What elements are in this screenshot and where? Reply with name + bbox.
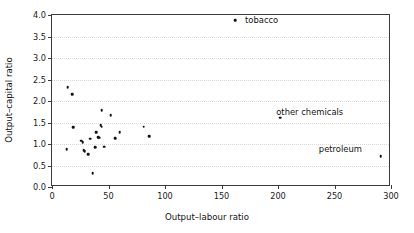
data-point <box>100 126 103 129</box>
data-point <box>81 141 84 144</box>
y-axis-tick-label: 1.0 <box>33 140 46 148</box>
y-axis-tick-label: 1.5 <box>33 118 46 126</box>
data-point <box>98 136 101 139</box>
gridline <box>52 166 389 167</box>
x-axis-tick-label: 50 <box>103 192 113 200</box>
gridline <box>52 37 389 38</box>
data-point <box>95 131 98 134</box>
gridline <box>52 123 389 124</box>
y-axis-tick-label: 0.5 <box>33 161 46 169</box>
data-point <box>148 135 151 138</box>
y-axis-tick <box>48 15 52 16</box>
y-axis-tick <box>48 58 52 59</box>
plot-area: 0.00.51.01.52.02.53.03.54.00501001502002… <box>51 14 390 186</box>
x-axis-tick-label: 100 <box>157 192 173 200</box>
x-axis-tick <box>109 185 110 189</box>
x-axis-title: Output–labour ratio <box>0 212 414 222</box>
y-axis-tick-label: 0.0 <box>33 183 46 191</box>
x-axis-tick <box>52 185 53 189</box>
x-axis-tick <box>222 185 223 189</box>
data-point <box>100 109 103 112</box>
data-point <box>380 155 383 158</box>
y-axis-tick <box>48 144 52 145</box>
data-point <box>89 138 92 141</box>
data-point <box>119 131 122 134</box>
data-point <box>94 146 97 149</box>
data-point <box>71 93 74 96</box>
x-axis-tick <box>335 185 336 189</box>
y-axis-tick <box>48 166 52 167</box>
x-axis-tick-label: 300 <box>383 192 399 200</box>
data-point <box>72 126 75 129</box>
gridline <box>52 58 389 59</box>
y-axis-tick <box>48 123 52 124</box>
data-point <box>234 19 237 22</box>
y-axis-tick-label: 2.0 <box>33 97 46 105</box>
point-annotation-petroleum: petroleum <box>319 145 362 153</box>
data-point <box>103 145 106 148</box>
data-point <box>67 86 70 89</box>
x-axis-tick <box>391 185 392 189</box>
data-point <box>91 172 94 175</box>
data-point <box>87 153 90 156</box>
data-point <box>142 126 145 129</box>
y-axis-tick-label: 3.0 <box>33 54 46 62</box>
data-point <box>279 116 282 119</box>
x-axis-tick-label: 0 <box>49 192 54 200</box>
y-axis-tick-label: 4.0 <box>33 11 46 19</box>
data-point <box>109 114 112 117</box>
y-axis-tick <box>48 37 52 38</box>
gridline <box>52 101 389 102</box>
y-axis-tick <box>48 101 52 102</box>
y-axis-tick <box>48 80 52 81</box>
y-axis-tick-label: 2.5 <box>33 75 46 83</box>
x-axis-tick-label: 250 <box>327 192 343 200</box>
x-axis-tick <box>278 185 279 189</box>
point-annotation-tobacco: tobacco <box>245 16 278 24</box>
x-axis-tick-label: 150 <box>214 192 230 200</box>
point-annotation-other-chemicals: other chemicals <box>276 108 343 116</box>
y-axis-title: Output–capital ratio <box>4 57 14 143</box>
data-point <box>65 148 68 151</box>
x-axis-tick-label: 200 <box>270 192 286 200</box>
data-point <box>83 150 86 153</box>
gridline <box>52 80 389 81</box>
x-axis-tick <box>165 185 166 189</box>
y-axis-tick-label: 3.5 <box>33 32 46 40</box>
scatter-chart-figure: 0.00.51.01.52.02.53.03.54.00501001502002… <box>0 0 414 233</box>
data-point <box>114 137 117 140</box>
